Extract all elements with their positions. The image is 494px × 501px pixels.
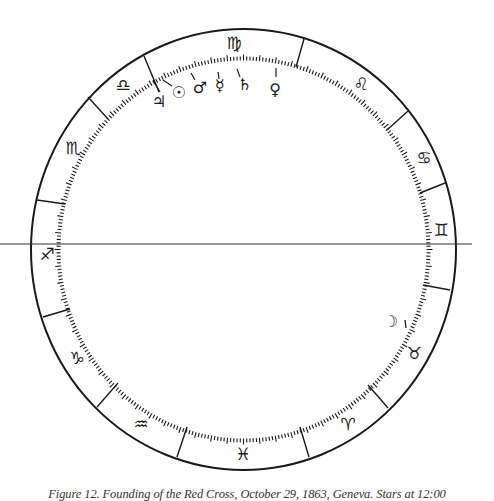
degree-tick bbox=[327, 418, 329, 422]
degree-tick bbox=[415, 183, 421, 185]
degree-tick bbox=[159, 78, 161, 82]
libra-icon: ♎︎ bbox=[115, 75, 130, 95]
degree-tick bbox=[335, 413, 338, 418]
degree-tick bbox=[98, 368, 101, 371]
degree-tick bbox=[309, 426, 310, 430]
degree-tick bbox=[343, 408, 345, 411]
degree-tick bbox=[71, 323, 75, 325]
degree-tick bbox=[408, 165, 412, 167]
degree-tick bbox=[176, 426, 177, 430]
degree-tick bbox=[288, 433, 289, 437]
degree-tick bbox=[65, 305, 69, 306]
degree-tick bbox=[364, 392, 367, 395]
degree-tick bbox=[375, 115, 378, 118]
degree-tick bbox=[73, 171, 77, 173]
degree-tick bbox=[340, 410, 342, 413]
degree-tick bbox=[65, 193, 69, 194]
degree-tick bbox=[275, 57, 276, 63]
degree-tick bbox=[110, 112, 114, 116]
degree-tick bbox=[420, 298, 426, 300]
cusp-line-libra-scorpio bbox=[88, 97, 108, 119]
degree-tick bbox=[80, 344, 85, 347]
degree-tick bbox=[83, 150, 86, 152]
degree-tick bbox=[227, 438, 228, 444]
degree-tick bbox=[78, 159, 82, 161]
degree-tick bbox=[373, 112, 377, 116]
degree-tick bbox=[348, 90, 351, 95]
degree-tick bbox=[198, 62, 199, 66]
degree-tick bbox=[60, 213, 64, 214]
degree-tick bbox=[164, 421, 167, 426]
degree-tick bbox=[419, 302, 423, 303]
degree-tick bbox=[179, 66, 181, 72]
degree-tick bbox=[373, 383, 377, 387]
degree-tick bbox=[343, 88, 345, 91]
degree-tick bbox=[214, 59, 215, 63]
degree-tick bbox=[424, 216, 430, 217]
degree-tick bbox=[70, 320, 74, 321]
degree-tick bbox=[72, 167, 77, 170]
aquarius-icon: ♒︎ bbox=[133, 414, 148, 434]
degree-tick bbox=[412, 174, 416, 176]
degree-tick bbox=[294, 431, 295, 435]
scorpio-icon: ♏︎ bbox=[65, 138, 80, 158]
degree-tick bbox=[55, 233, 61, 234]
degree-tick bbox=[98, 128, 101, 131]
degree-tick bbox=[379, 120, 382, 123]
degree-tick bbox=[392, 361, 395, 363]
degree-tick bbox=[418, 308, 422, 309]
degree-tick bbox=[192, 64, 193, 68]
degree-tick bbox=[156, 79, 158, 83]
degree-tick bbox=[408, 332, 412, 334]
degree-tick bbox=[382, 373, 385, 376]
degree-tick bbox=[420, 199, 426, 201]
degree-tick bbox=[131, 400, 133, 403]
degree-tick bbox=[426, 266, 432, 267]
degree-tick bbox=[418, 190, 422, 191]
degree-tick bbox=[366, 390, 369, 393]
degree-tick bbox=[377, 118, 380, 121]
degree-tick bbox=[217, 437, 218, 441]
aries-icon: ♈︎ bbox=[340, 414, 355, 434]
degree-tick bbox=[214, 436, 215, 440]
degree-tick bbox=[116, 108, 119, 111]
degree-tick bbox=[144, 86, 146, 89]
degree-tick bbox=[105, 376, 108, 379]
degree-tick bbox=[356, 398, 358, 401]
degree-tick bbox=[134, 93, 136, 96]
degree-tick bbox=[64, 196, 68, 197]
degree-tick bbox=[275, 436, 276, 442]
degree-tick bbox=[186, 66, 187, 70]
degree-tick bbox=[128, 398, 130, 401]
degree-tick bbox=[423, 213, 427, 214]
degree-tick bbox=[423, 209, 427, 210]
degree-tick bbox=[77, 335, 81, 337]
degree-tick bbox=[201, 434, 202, 438]
degree-tick bbox=[205, 434, 206, 438]
leo-icon: ♌︎ bbox=[353, 74, 368, 94]
degree-tick bbox=[395, 142, 398, 144]
degree-tick bbox=[162, 419, 164, 423]
cusp-line-taurus-gemini bbox=[423, 285, 450, 290]
degree-tick bbox=[60, 286, 64, 287]
degree-tick bbox=[78, 338, 82, 340]
degree-tick bbox=[366, 106, 369, 109]
degree-tick bbox=[70, 177, 74, 178]
degree-tick bbox=[227, 55, 228, 61]
capricorn-icon: ♑︎ bbox=[69, 348, 84, 368]
degree-tick bbox=[407, 162, 411, 164]
degree-tick bbox=[340, 86, 342, 89]
degree-tick bbox=[413, 177, 417, 178]
degree-tick bbox=[135, 90, 138, 95]
degree-tick bbox=[192, 431, 193, 435]
degree-tick bbox=[285, 61, 286, 65]
degree-tick bbox=[303, 428, 304, 432]
degree-tick bbox=[419, 305, 423, 306]
cusp-line-capricorn-aquarius bbox=[97, 383, 118, 407]
degree-tick bbox=[109, 381, 112, 384]
saturn-icon: ♄︎ bbox=[238, 75, 252, 94]
degree-tick bbox=[413, 320, 417, 321]
degree-tick bbox=[351, 402, 353, 405]
degree-tick bbox=[297, 430, 298, 434]
degree-tick bbox=[176, 69, 177, 73]
